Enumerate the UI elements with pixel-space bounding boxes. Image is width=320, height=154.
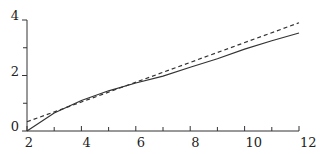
x-tick-label: 12 [300,135,317,150]
series [27,23,299,131]
x-tick-label: 4 [82,135,90,150]
y-tick-label: 4 [11,8,19,23]
y-tick-label: 0 [11,119,19,134]
series-solid-line [27,33,299,131]
line-chart: 24681012024 [0,0,320,154]
series-dashed-line [27,23,299,122]
ticks [22,20,299,131]
tick-labels: 24681012024 [11,8,317,150]
x-tick-label: 2 [25,135,33,150]
x-tick-label: 10 [246,135,263,150]
y-tick-label: 2 [11,64,19,79]
x-tick-label: 8 [191,135,199,150]
x-tick-label: 6 [137,135,145,150]
